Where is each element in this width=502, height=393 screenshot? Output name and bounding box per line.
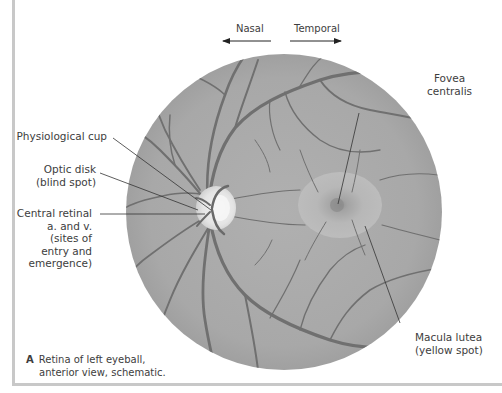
caption-line1: Retina of left eyeball, — [39, 354, 146, 365]
optic-disk-label: Optic disk (blind spot) — [36, 163, 96, 188]
central-retinal-label-line5: emergence) — [17, 257, 92, 270]
macula-label-line1: Macula lutea — [415, 331, 483, 344]
caption-letter: A — [26, 354, 34, 365]
figure-caption: ARetina of left eyeball, anterior view, … — [26, 353, 166, 379]
macula-lutea-label: Macula lutea (yellow spot) — [415, 331, 483, 356]
fovea-label-line2: centralis — [427, 85, 472, 98]
fovea-centralis — [330, 198, 344, 212]
central-retinal-label-line4: entry and — [17, 245, 92, 258]
macula-label-line2: (yellow spot) — [415, 344, 483, 357]
optic-disk-label-line2: (blind spot) — [36, 176, 96, 189]
physiological-cup-label: Physiological cup — [17, 130, 108, 143]
optic-disk-label-line1: Optic disk — [36, 163, 96, 176]
central-retinal-label-line3: (sites of — [17, 232, 92, 245]
central-retinal-label-line1: Central retinal — [17, 207, 92, 220]
central-retinal-label-line2: a. and v. — [17, 220, 92, 233]
nasal-label: Nasal — [236, 23, 264, 36]
temporal-label: Temporal — [294, 23, 340, 36]
central-retinal-label: Central retinal a. and v. (sites of entr… — [17, 207, 92, 270]
caption-line2: anterior view, schematic. — [26, 366, 166, 379]
fovea-label-line1: Fovea — [427, 72, 472, 85]
fovea-centralis-label: Fovea centralis — [427, 72, 472, 97]
